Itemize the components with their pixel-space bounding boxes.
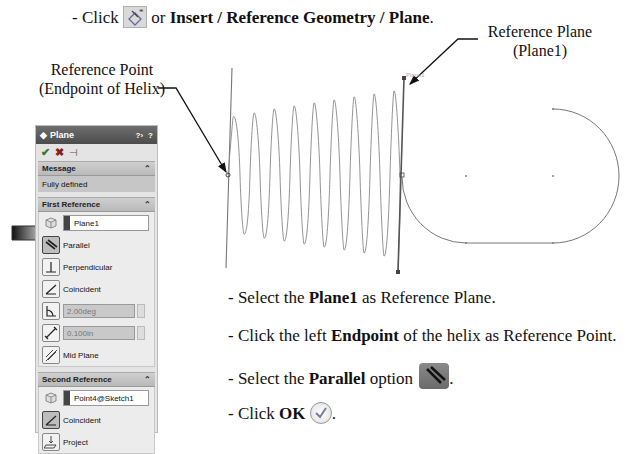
angle-icon[interactable]: [42, 302, 60, 320]
plane-icon: ◆: [40, 130, 47, 140]
angle-spinner[interactable]: [137, 304, 145, 318]
perpendicular-icon[interactable]: [42, 258, 60, 276]
pushpin-icon[interactable]: ⊣: [69, 147, 78, 158]
second-reference-body: Point4@Sketch1 Coincident Project: [38, 387, 155, 454]
collapse-chevron-icon[interactable]: ⌃: [144, 375, 151, 384]
option-coincident-second[interactable]: Coincident: [39, 409, 154, 431]
plane-property-manager: ◆ Plane ?› ? ✔ ✖ ⊣ Message ⌃ Fully defin…: [35, 125, 158, 433]
step-1: - Select the Plane1 as Reference Plane.: [228, 288, 496, 308]
leader-reference-point: [158, 88, 226, 172]
step-2: - Click the left Endpoint of the helix a…: [228, 326, 617, 346]
pm-title-bar: ◆ Plane ?› ?: [36, 126, 157, 144]
cube-icon: [42, 214, 60, 232]
plane1-label: Plane1: [406, 72, 425, 78]
sketch-path: [402, 109, 619, 243]
help-icon[interactable]: ?›: [136, 131, 144, 140]
coincident-icon[interactable]: [42, 280, 60, 298]
collapse-chevron-icon[interactable]: ⌃: [144, 164, 151, 173]
distance-row: 0.100in: [39, 322, 154, 344]
cube-icon: [42, 389, 60, 407]
ok-check-icon[interactable]: ✔: [41, 146, 50, 159]
message-text: Fully defined: [38, 176, 155, 192]
angle-input[interactable]: 2.00deg: [63, 304, 135, 318]
angle-row: 2.00deg: [39, 300, 154, 322]
helix-curve: [228, 91, 400, 270]
parallel-icon: [419, 363, 449, 389]
collapse-chevron-icon[interactable]: ⌃: [144, 200, 151, 209]
plane1-edge: [398, 78, 404, 272]
question-icon[interactable]: ?: [148, 131, 153, 140]
option-mid-plane[interactable]: Mid Plane: [39, 344, 154, 366]
mid-plane-icon[interactable]: [42, 346, 60, 364]
project-icon[interactable]: [42, 433, 60, 451]
option-project[interactable]: Project: [39, 431, 154, 453]
distance-input[interactable]: 0.100in: [63, 326, 135, 340]
first-reference-body: Plane1 Parallel Perpendicular Coincident: [38, 212, 155, 367]
distance-spinner[interactable]: [137, 326, 145, 340]
first-reference-selection[interactable]: Plane1: [63, 215, 149, 231]
second-reference-header[interactable]: Second Reference ⌃: [38, 372, 155, 387]
parallel-icon[interactable]: [42, 236, 60, 254]
pm-toolbar: ✔ ✖ ⊣: [36, 144, 157, 161]
ok-check-icon: [310, 402, 332, 424]
coincident-icon[interactable]: [42, 411, 60, 429]
second-reference-selection[interactable]: Point4@Sketch1: [63, 390, 149, 406]
message-section-header[interactable]: Message ⌃: [38, 161, 155, 176]
step-3: - Select the Parallel option .: [228, 367, 454, 393]
option-coincident[interactable]: Coincident: [39, 278, 154, 300]
step-4: - Click OK .: [228, 404, 336, 426]
distance-icon[interactable]: [42, 324, 60, 342]
first-reference-header[interactable]: First Reference ⌃: [38, 197, 155, 212]
option-parallel[interactable]: Parallel: [39, 234, 154, 256]
option-perpendicular[interactable]: Perpendicular: [39, 256, 154, 278]
cancel-x-icon[interactable]: ✖: [55, 146, 64, 159]
